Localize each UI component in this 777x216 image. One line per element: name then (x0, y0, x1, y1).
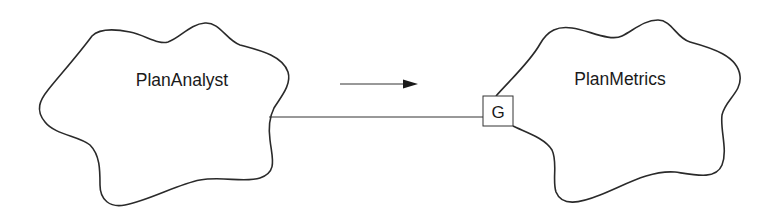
direction-arrow (340, 80, 418, 89)
node-label-plan-analyst: PlanAnalyst (136, 70, 229, 90)
node-plan-metrics: PlanMetrics (496, 20, 740, 202)
gate-label: G (491, 103, 504, 122)
cloud-shape-plan-metrics (496, 20, 740, 202)
node-label-plan-metrics: PlanMetrics (574, 69, 666, 89)
node-plan-analyst: PlanAnalyst (39, 23, 288, 206)
cloud-shape-plan-analyst (39, 23, 288, 206)
gate-port: G (483, 96, 513, 126)
arrow-head-icon (403, 80, 418, 89)
component-diagram: PlanAnalyst PlanMetrics G (0, 0, 777, 216)
